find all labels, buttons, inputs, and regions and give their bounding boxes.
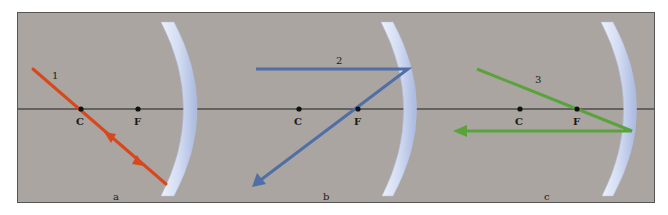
point-c-label-a: C bbox=[76, 116, 84, 127]
ray-label-3: 3 bbox=[535, 74, 541, 85]
panel-background bbox=[18, 13, 655, 203]
point-f-label-c: F bbox=[573, 116, 580, 127]
panel-label-b: b bbox=[323, 191, 329, 202]
point-c-a bbox=[78, 106, 83, 111]
ray-label-1: 1 bbox=[52, 70, 58, 81]
point-c-c bbox=[517, 106, 522, 111]
point-c-b bbox=[296, 106, 301, 111]
point-f-a bbox=[135, 106, 140, 111]
point-f-b bbox=[355, 106, 360, 111]
ray-label-2: 2 bbox=[336, 55, 342, 66]
point-f-label-a: F bbox=[134, 116, 141, 127]
concave-mirror-ray-diagram: C F 1 a C F 2 b C F 3 c bbox=[0, 0, 668, 215]
point-c-label-b: C bbox=[294, 116, 302, 127]
panel-label-a: a bbox=[113, 191, 119, 202]
point-f-label-b: F bbox=[354, 116, 361, 127]
panel-label-c: c bbox=[544, 191, 550, 202]
point-c-label-c: C bbox=[515, 116, 523, 127]
point-f-c bbox=[574, 106, 579, 111]
